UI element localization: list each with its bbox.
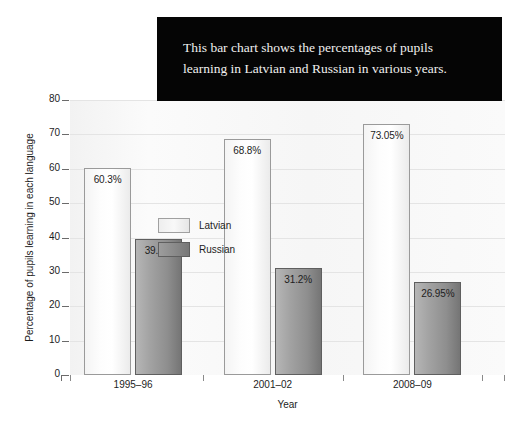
caption-overlay: This bar chart shows the percentages of … xyxy=(157,17,502,101)
x-axis-labels: 1995–962001–022008–09 xyxy=(70,379,505,395)
y-axis-tick-mark xyxy=(62,272,69,273)
y-axis-tick-label: 50 xyxy=(49,196,60,207)
x-axis-label: 2001–02 xyxy=(233,379,313,390)
y-axis-tick-label: 10 xyxy=(49,334,60,345)
y-axis-tick-label: 60 xyxy=(49,162,60,173)
bar-latvian-1995-96: 60.3% xyxy=(84,168,131,375)
caption-text: This bar chart shows the percentages of … xyxy=(157,38,502,80)
bar-value-label: 73.05% xyxy=(364,130,409,141)
x-axis-label: 2008–09 xyxy=(372,379,452,390)
legend-item-latvian: Latvian xyxy=(158,218,235,233)
bar-value-label: 31.2% xyxy=(276,274,321,285)
bar-value-label: 60.3% xyxy=(85,174,130,185)
y-axis: 01020304050607080 xyxy=(0,100,70,375)
y-axis-tick-mark xyxy=(62,169,69,170)
y-axis-tick-label: 20 xyxy=(49,299,60,310)
legend-swatch-russian xyxy=(158,242,190,257)
y-axis-tick-mark xyxy=(61,375,69,381)
legend-swatch-latvian xyxy=(158,218,190,233)
bar-value-label: 26.95% xyxy=(415,288,460,299)
x-axis-title: Year xyxy=(70,399,505,410)
bar-russian-2008-09: 26.95% xyxy=(414,282,461,375)
bar-chart-figure: Percentage of pupils learning in each la… xyxy=(0,0,529,434)
bar-value-label: 68.8% xyxy=(225,145,270,156)
bar-latvian-2008-09: 73.05% xyxy=(363,124,410,375)
y-axis-tick-label: 30 xyxy=(49,265,60,276)
y-axis-tick-mark xyxy=(62,203,69,204)
legend-label: Latvian xyxy=(199,220,231,231)
y-axis-tick-label: 40 xyxy=(49,231,60,242)
legend-label: Russian xyxy=(199,244,235,255)
bar-russian-2001-02: 31.2% xyxy=(275,268,322,375)
legend: LatvianRussian xyxy=(158,218,235,266)
y-axis-tick-mark xyxy=(62,238,69,239)
y-axis-tick-label: 0 xyxy=(54,368,60,379)
y-axis-tick-mark xyxy=(62,134,69,135)
bars-layer: 60.3%39.7%68.8%31.2%73.05%26.95% xyxy=(70,100,505,375)
x-axis-label: 1995–96 xyxy=(93,379,173,390)
y-axis-tick-label: 70 xyxy=(49,127,60,138)
legend-item-russian: Russian xyxy=(158,242,235,257)
y-axis-tick-mark xyxy=(62,306,69,307)
y-axis-tick-mark xyxy=(62,100,69,101)
y-axis-tick-label: 80 xyxy=(49,93,60,104)
plot-area: 60.3%39.7%68.8%31.2%73.05%26.95% Latvian… xyxy=(70,100,505,375)
y-axis-tick-mark xyxy=(62,341,69,342)
